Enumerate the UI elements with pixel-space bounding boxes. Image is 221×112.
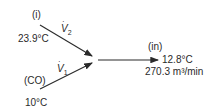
inlet-i-flow-label: V·2: [61, 23, 72, 38]
inlet-i-tag: (i): [32, 9, 41, 20]
inlet-co-temperature: 10°C: [25, 97, 47, 108]
inlet-i-temperature: 23.9°C: [18, 33, 49, 44]
inlet-co-flow-label: V·1: [57, 63, 68, 78]
outlet-temperature: 12.8°C: [162, 54, 193, 65]
inlet-co-tag: (CO): [24, 75, 46, 86]
outlet-flow-rate: 270.3 m³/min: [145, 66, 203, 77]
outlet-tag: (in): [148, 41, 162, 52]
